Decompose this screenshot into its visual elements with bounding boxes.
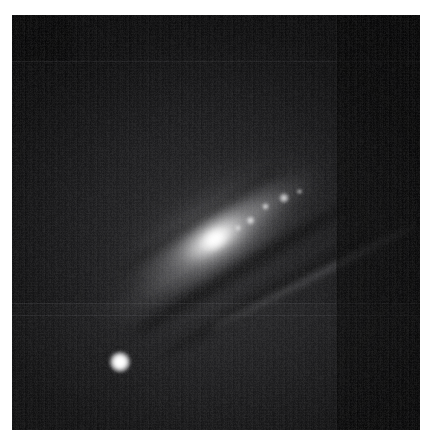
- hii-knot-3: [279, 193, 289, 203]
- caption-remnant: [0, 0, 432, 10]
- hii-knot-1: [246, 216, 255, 225]
- hii-knot-4: [235, 225, 241, 231]
- galaxy-nucleus: [195, 221, 235, 258]
- mosaic-panel-right-dark: [336, 15, 420, 430]
- hii-knot-5: [297, 189, 302, 194]
- astronomical-image: [12, 15, 420, 430]
- bright-companion-source: [109, 351, 131, 373]
- hii-knot-2: [262, 203, 269, 210]
